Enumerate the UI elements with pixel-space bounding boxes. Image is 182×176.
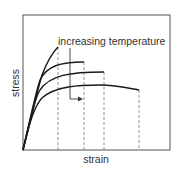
curve-highest-temp (23, 85, 139, 150)
diagram-canvas: increasing temperature strain stress (0, 0, 182, 176)
arrow-head-icon (78, 97, 83, 102)
stress-strain-diagram: increasing temperature strain stress (0, 0, 182, 176)
y-axis-label: stress (9, 69, 21, 97)
curve-low-mid-temp (23, 62, 84, 150)
curve-high-mid-temp (23, 72, 104, 150)
annotation-label: increasing temperature (58, 35, 166, 47)
x-axis-label: strain (83, 153, 109, 165)
curve-lowest-temp (23, 47, 58, 150)
